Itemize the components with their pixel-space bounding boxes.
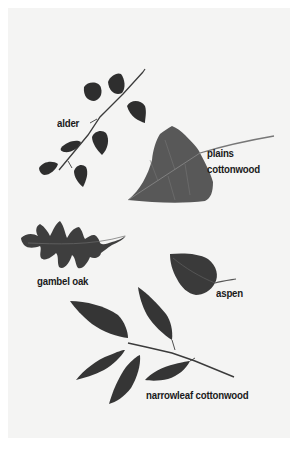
alder-twig (39, 69, 146, 187)
plains-cottonwood-label-line2: cottonwood (207, 163, 260, 175)
gambel-oak-label: gambel oak (37, 275, 88, 287)
alder-label: alder (57, 117, 79, 129)
narrowleaf-cottonwood-twig (70, 287, 234, 404)
gambel-oak-leaf (21, 221, 126, 268)
leaf-illustration (0, 0, 299, 449)
narrowleaf-cottonwood-label: narrowleaf cottonwood (146, 389, 248, 401)
plains-cottonwood-label-line1: plains (207, 147, 234, 159)
aspen-label: aspen (216, 287, 243, 299)
